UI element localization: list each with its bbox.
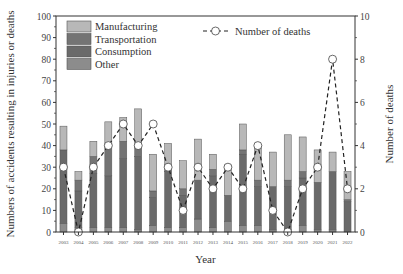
deaths-marker-2010 <box>164 163 172 171</box>
legend-swatch-manufacturing <box>67 21 91 32</box>
deaths-marker-2003 <box>59 163 67 171</box>
bar-segment-consumption <box>150 197 157 225</box>
x-tick-label: 2020 <box>313 240 324 245</box>
bar-segment-other <box>120 228 127 232</box>
deaths-line <box>59 55 351 236</box>
x-tick-label: 2004 <box>73 240 84 245</box>
deaths-marker-2014 <box>224 163 232 171</box>
x-tick-label: 2022 <box>343 240 354 245</box>
bar-segment-manufacturing <box>60 126 67 150</box>
x-tick-label: 2011 <box>178 240 188 245</box>
bar-segment-other <box>224 221 231 232</box>
deaths-marker-2007 <box>119 120 127 128</box>
bar-2003 <box>60 126 67 232</box>
bar-segment-transportation <box>150 191 157 197</box>
bar-segment-manufacturing <box>150 154 157 191</box>
bar-segment-other <box>105 228 112 232</box>
y-tick-label: 30 <box>42 163 52 173</box>
bar-2021 <box>329 152 336 232</box>
legend-swatch-transportation <box>67 34 91 45</box>
y-tick-label: 40 <box>42 141 52 151</box>
x-tick-label: 2008 <box>133 240 144 245</box>
bar-segment-manufacturing <box>165 143 172 165</box>
deaths-marker-2019 <box>299 185 307 193</box>
x-tick-label: 2018 <box>283 240 294 245</box>
bar-segment-manufacturing <box>239 124 246 150</box>
x-tick-label: 2019 <box>298 240 309 245</box>
bar-segment-other <box>254 226 261 232</box>
bar-segment-consumption <box>90 174 97 228</box>
bar-2014 <box>224 165 231 232</box>
y2-tick-label: 10 <box>360 12 370 22</box>
bar-segment-other <box>209 228 216 232</box>
bar-segment-manufacturing <box>180 161 187 189</box>
bar-segment-other <box>180 228 187 232</box>
x-tick-label: 2006 <box>103 240 114 245</box>
bar-segment-consumption <box>105 176 112 228</box>
bar-2017 <box>269 152 276 232</box>
bar-segment-transportation <box>254 180 261 186</box>
bar-segment-consumption <box>209 176 216 228</box>
deaths-marker-2022 <box>344 185 352 193</box>
deaths-marker-2021 <box>329 55 337 63</box>
legend-line-marker <box>212 27 220 35</box>
deaths-marker-2011 <box>179 206 187 214</box>
bar-segment-transportation <box>120 141 127 158</box>
legend-swatch-other <box>67 59 91 70</box>
x-tick-label: 2016 <box>253 240 264 245</box>
bar-2010 <box>165 143 172 232</box>
bar-segment-consumption <box>120 159 127 228</box>
bar-segment-transportation <box>180 189 187 195</box>
x-tick-label: 2014 <box>223 240 234 245</box>
bar-segment-manufacturing <box>75 172 82 181</box>
bar-segment-transportation <box>299 172 306 178</box>
bar-segment-manufacturing <box>329 152 336 171</box>
legend: ManufacturingTransportationConsumptionOt… <box>67 21 310 70</box>
y2-tick-label: 8 <box>360 55 365 65</box>
bar-segment-other <box>150 226 157 232</box>
x-tick-label: 2010 <box>163 240 174 245</box>
y2-axis-title: Number of deaths <box>383 85 395 164</box>
bar-segment-consumption <box>195 180 202 219</box>
x-tick-label: 2007 <box>118 240 129 245</box>
y2-tick-label: 6 <box>360 98 365 108</box>
y-tick-label: 70 <box>42 76 52 86</box>
bar-2011 <box>180 161 187 232</box>
deaths-marker-2020 <box>314 163 322 171</box>
bar-segment-consumption <box>165 172 172 228</box>
deaths-marker-2015 <box>239 185 247 193</box>
legend-label-other: Other <box>95 59 119 70</box>
x-tick-label: 2013 <box>208 240 219 245</box>
deaths-marker-2006 <box>104 142 112 150</box>
bar-segment-consumption <box>135 156 142 229</box>
legend-swatch-consumption <box>67 46 91 57</box>
legend-label-consumption: Consumption <box>95 46 152 57</box>
bar-segment-other <box>299 226 306 232</box>
legend-label-deaths: Number of deaths <box>235 26 310 37</box>
bar-segment-other <box>60 223 67 232</box>
bar-segment-manufacturing <box>209 154 216 169</box>
x-tick-label: 2009 <box>148 240 159 245</box>
bar-2006 <box>105 122 112 232</box>
bar-segment-manufacturing <box>299 137 306 172</box>
chart: 0102030405060708090100024681020032004200… <box>0 0 403 274</box>
bar-2009 <box>150 154 157 232</box>
bar-segment-consumption <box>60 150 67 223</box>
bar-2007 <box>120 118 127 232</box>
deaths-marker-2017 <box>269 206 277 214</box>
bar-2005 <box>90 141 97 232</box>
bar-segment-consumption <box>344 202 351 232</box>
deaths-marker-2013 <box>209 185 217 193</box>
bar-segment-consumption <box>254 187 261 226</box>
bar-segment-transportation <box>209 169 216 175</box>
x-axis-title: Year <box>195 253 216 265</box>
bar-segment-transportation <box>284 180 291 186</box>
bar-segment-consumption <box>314 182 321 230</box>
x-tick-label: 2005 <box>88 240 99 245</box>
bar-segment-manufacturing <box>254 146 261 181</box>
y2-tick-label: 2 <box>360 184 365 194</box>
x-tick-label: 2015 <box>238 240 249 245</box>
bar-segment-manufacturing <box>269 152 276 187</box>
bar-2018 <box>284 135 291 232</box>
y-tick-label: 60 <box>42 98 52 108</box>
